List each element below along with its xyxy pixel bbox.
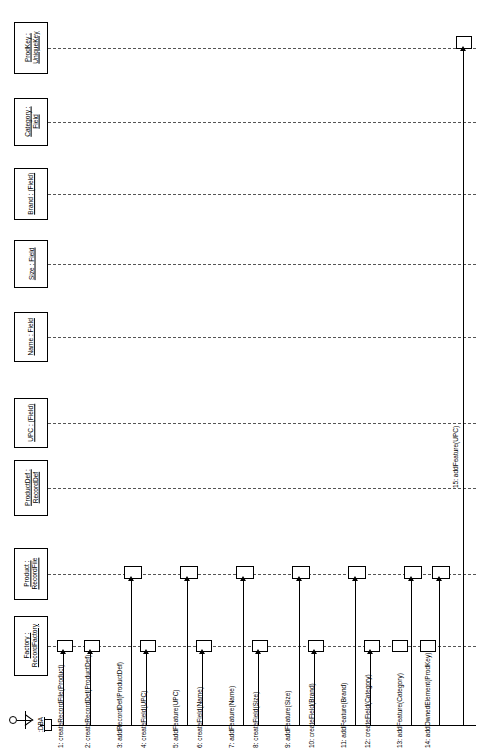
msg-line-14 bbox=[439, 579, 440, 725]
msg-label-8: 8: createField(Size) bbox=[252, 692, 259, 748]
msg-line-13 bbox=[411, 579, 412, 725]
lifeline-line-category bbox=[48, 122, 476, 123]
msg-arrow-9 bbox=[296, 576, 302, 581]
msg-line-9 bbox=[299, 579, 300, 725]
msg-arrow-14 bbox=[436, 576, 442, 581]
lifeline-head-category[interactable]: Category : Field bbox=[14, 98, 48, 146]
msg-label-13: 13: addFeature(Category) bbox=[396, 673, 403, 748]
lifeline-line-size bbox=[48, 264, 476, 265]
msg-arrow-15 bbox=[460, 46, 466, 51]
msg-label-5: 5: addFeature(UPC) bbox=[172, 689, 179, 748]
msg-arrow-11 bbox=[352, 576, 358, 581]
msg-arrow-4 bbox=[143, 649, 149, 654]
msg-label-6: 6: createField(Name) bbox=[196, 687, 203, 748]
msg-arrow-12 bbox=[367, 649, 373, 654]
msg-line-15 bbox=[463, 49, 464, 725]
msg-line-3 bbox=[131, 579, 132, 725]
msg-label-2: 2: createRecordDef(ProductDef) bbox=[84, 655, 91, 748]
lifeline-line-productdef bbox=[48, 488, 476, 489]
lifeline-label-productdef: ProductDef : RecordDef bbox=[23, 470, 38, 507]
sequence-diagram-canvas: ProdKey : UniqueKey Category : Field Bra… bbox=[0, 0, 484, 752]
lifeline-head-product[interactable]: Product : RecordFile bbox=[14, 548, 48, 600]
lifeline-line-name bbox=[48, 337, 476, 338]
msg-label-1: 1: createRecordFile(Product) bbox=[57, 665, 64, 748]
msg-arrow-10 bbox=[311, 649, 317, 654]
lifeline-label-product: Product : RecordFile bbox=[23, 558, 38, 590]
msg-label-3: 3: addRecordDef(ProductDef) bbox=[116, 662, 123, 748]
msg-label-4: 4: createField(UPC) bbox=[140, 691, 147, 748]
msg-line-11 bbox=[355, 579, 356, 725]
msg-arrow-13 bbox=[408, 576, 414, 581]
lifeline-line-prodkey bbox=[48, 48, 476, 49]
msg-arrow-2 bbox=[87, 649, 93, 654]
activation-factory-9 bbox=[420, 640, 436, 652]
msg-line-5 bbox=[187, 579, 188, 725]
lifeline-line-upc bbox=[48, 423, 476, 424]
lifeline-head-size[interactable]: Size : Field bbox=[14, 240, 48, 288]
lifeline-head-name[interactable]: Name : Field bbox=[14, 312, 48, 362]
msg-line-7 bbox=[243, 579, 244, 725]
lifeline-line-brand bbox=[48, 194, 476, 195]
msg-label-11: 11: addFeature(Brand) bbox=[340, 683, 347, 748]
activation-factory-8 bbox=[392, 640, 408, 652]
msg-label-12: 12: createField(Category) bbox=[364, 674, 371, 748]
msg-arrow-8 bbox=[255, 649, 261, 654]
msg-label-9: 9: addFeature(Size) bbox=[284, 691, 291, 748]
msg-arrow-6 bbox=[199, 649, 205, 654]
lifeline-head-factory[interactable]: Factory : RecordFactory bbox=[14, 616, 48, 676]
lifeline-label-category: Category : Field bbox=[23, 107, 38, 137]
lifeline-label-size: Size : Field bbox=[27, 248, 35, 281]
lifeline-head-prodkey[interactable]: ProdKey : UniqueKey bbox=[14, 22, 48, 74]
msg-label-7: 7: addFeature(Name) bbox=[228, 686, 235, 748]
actor-head-icon bbox=[9, 716, 17, 724]
lifeline-label-factory: Factory : RecordFactory bbox=[23, 624, 38, 667]
lifeline-label-upc: UPC : (Field) bbox=[27, 404, 35, 442]
msg-arrow-5 bbox=[184, 576, 190, 581]
msg-label-15: 15: addFeature(UPC) bbox=[452, 426, 459, 488]
lifeline-head-upc[interactable]: UPC : (Field) bbox=[14, 398, 48, 448]
msg-arrow-3 bbox=[128, 576, 134, 581]
msg-label-10: 10: createField(Brand) bbox=[308, 683, 315, 748]
lifeline-head-productdef[interactable]: ProductDef : RecordDef bbox=[14, 460, 48, 516]
lifeline-label-prodkey: ProdKey : UniqueKey bbox=[23, 32, 38, 64]
msg-label-14: 14: addOwnedElement(ProdKey) bbox=[424, 653, 431, 748]
lifeline-head-brand[interactable]: Brand : (Field) bbox=[14, 168, 48, 220]
msg-arrow-1 bbox=[60, 649, 66, 654]
activation-actor bbox=[44, 719, 52, 731]
msg-arrow-7 bbox=[240, 576, 246, 581]
lifeline-label-name: Name : Field bbox=[27, 318, 35, 355]
lifeline-label-brand: Brand : (Field) bbox=[27, 173, 35, 215]
